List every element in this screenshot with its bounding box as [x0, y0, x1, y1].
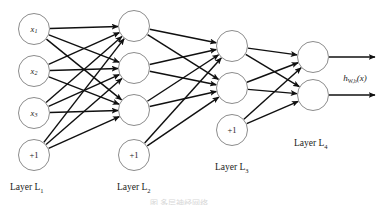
- layer-label-L1: Layer L1: [10, 182, 44, 194]
- node-label-bias-layer1: +1: [29, 150, 38, 160]
- bottom-caption-strip: 图 多层神经网络: [0, 197, 384, 205]
- network-svg: x1x2x3+1+1+1 Layer L1Layer L2Layer L3Lay…: [0, 0, 384, 205]
- edge-hidden2-n3-to-hidden3-n1: [147, 55, 218, 102]
- edge-hidden3-n2-to-output-n1: [247, 63, 298, 83]
- node-hidden3-n1: [217, 31, 248, 62]
- layer-label-L3: Layer L3: [215, 162, 249, 174]
- edge-bias-layer3-to-output-n2: [247, 101, 299, 123]
- node-hidden3-n2: [217, 73, 248, 104]
- edge-hidden3-n1-to-output-n1: [248, 48, 297, 55]
- node-output-n2: [298, 80, 329, 111]
- layer-label-L2: Layer L2: [117, 182, 151, 194]
- edge-bias-layer1-to-hidden2-n2: [46, 79, 122, 145]
- edge-hidden2-n1-to-hidden3-n1: [150, 29, 217, 43]
- edge-hidden3-n1-to-output-n2: [246, 54, 300, 86]
- node-hidden2-n2: [119, 53, 150, 84]
- edge-input-x3-to-hidden2-n1: [46, 37, 122, 103]
- node-hidden2-n3: [119, 95, 150, 126]
- node-label-bias-layer3: +1: [227, 125, 236, 135]
- node-label-bias-layer2: +1: [129, 150, 138, 160]
- edge-bias-layer2-to-hidden3-n1: [145, 58, 222, 143]
- node-output-n1: [298, 42, 329, 73]
- node-hidden2-n1: [119, 11, 150, 42]
- layer-label-L4: Layer L4: [294, 138, 328, 150]
- bottom-caption: 图 多层神经网络: [150, 197, 208, 205]
- edge-bias-layer1-to-hidden2-n1: [44, 39, 124, 143]
- output-label: hW,b(x): [343, 73, 366, 84]
- edge-input-x1-to-hidden2-n1: [50, 26, 118, 28]
- neural-network-diagram: x1x2x3+1+1+1 Layer L1Layer L2Layer L3Lay…: [0, 0, 384, 205]
